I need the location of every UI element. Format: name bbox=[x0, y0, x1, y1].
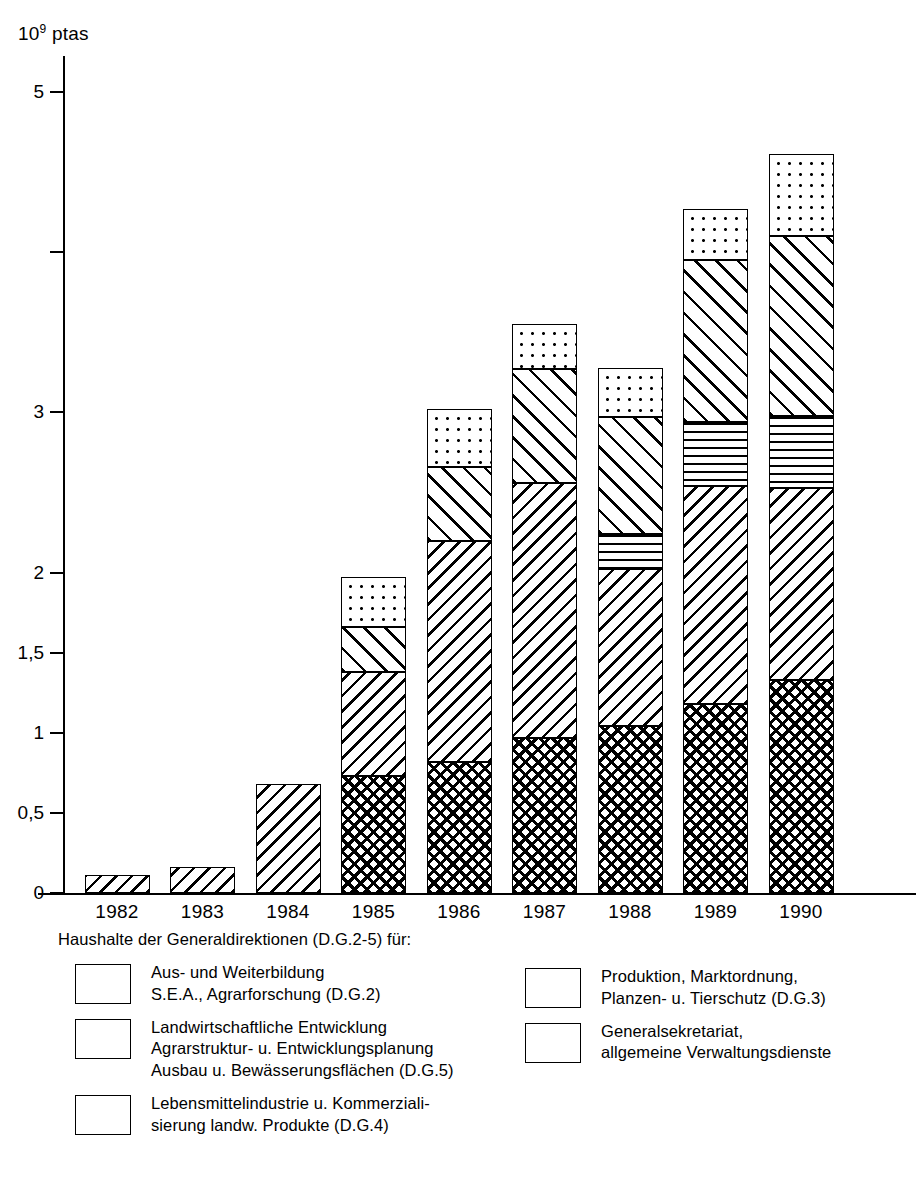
bar-segment-dg3-1988[interactable] bbox=[598, 417, 663, 534]
bar-segment-dg4-1988[interactable] bbox=[598, 534, 663, 569]
legend-swatch-dg2-icon bbox=[75, 964, 131, 1004]
bar-segment-dg4-1990[interactable] bbox=[769, 416, 834, 488]
x-axis-label-1990: 1990 bbox=[761, 901, 841, 923]
bar-1982[interactable] bbox=[85, 0, 150, 893]
legend-label-gs: Generalsekretariat, allgemeine Verwaltun… bbox=[601, 1021, 915, 1065]
bar-segment-dg5-1989[interactable] bbox=[683, 486, 748, 704]
bar-segment-dg5-1987[interactable] bbox=[512, 483, 577, 738]
legend-swatch-dg5-icon bbox=[75, 1019, 131, 1059]
bar-segment-gs-1990[interactable] bbox=[769, 154, 834, 236]
bar-segment-dg3-1990[interactable] bbox=[769, 236, 834, 415]
bar-segment-dg5-1984[interactable] bbox=[256, 784, 321, 893]
bar-segment-dg3-1986[interactable] bbox=[427, 467, 492, 541]
legend-item-dg4[interactable]: Lebensmittelindustrie u. Kommerziali- si… bbox=[75, 1093, 495, 1137]
legend-swatch-dg4-icon bbox=[75, 1095, 131, 1135]
bar-segment-gs-1989[interactable] bbox=[683, 209, 748, 260]
legend-item-dg2[interactable]: Aus- und Weiterbildung S.E.A., Agrarfors… bbox=[75, 962, 495, 1006]
bar-segment-dg3-1989[interactable] bbox=[683, 260, 748, 422]
bar-segment-gs-1986[interactable] bbox=[427, 409, 492, 467]
bar-segment-dg2-1988[interactable] bbox=[598, 726, 663, 893]
legend-item-gs[interactable]: Generalsekretariat, allgemeine Verwaltun… bbox=[525, 1021, 915, 1065]
bar-segment-dg5-1983[interactable] bbox=[170, 867, 235, 893]
x-axis-label-1984: 1984 bbox=[248, 901, 328, 923]
bar-segment-gs-1988[interactable] bbox=[598, 368, 663, 418]
legend-column-left: Aus- und Weiterbildung S.E.A., Agrarfors… bbox=[75, 962, 495, 1147]
chart-root: 109 ptas 5321,510,50 1982198319841985198… bbox=[0, 0, 921, 1191]
x-axis-label-1986: 1986 bbox=[419, 901, 499, 923]
x-axis-label-1988: 1988 bbox=[590, 901, 670, 923]
legend-label-dg2: Aus- und Weiterbildung S.E.A., Agrarfors… bbox=[151, 962, 495, 1006]
x-axis-label-1983: 1983 bbox=[163, 901, 243, 923]
bar-segment-dg3-1987[interactable] bbox=[512, 369, 577, 483]
bar-1984[interactable] bbox=[256, 0, 321, 893]
legend-label-dg4: Lebensmittelindustrie u. Kommerziali- si… bbox=[151, 1093, 495, 1137]
bar-segment-dg2-1985[interactable] bbox=[341, 776, 406, 893]
x-axis-label-1987: 1987 bbox=[505, 901, 585, 923]
bar-segment-dg3-1985[interactable] bbox=[341, 627, 406, 672]
legend-column-right: Produktion, Marktordnung, Planzen- u. Ti… bbox=[525, 966, 915, 1075]
bar-1987[interactable] bbox=[512, 0, 577, 893]
bar-segment-dg5-1990[interactable] bbox=[769, 488, 834, 680]
bar-segment-dg5-1986[interactable] bbox=[427, 541, 492, 762]
legend-label-dg3: Produktion, Marktordnung, Planzen- u. Ti… bbox=[601, 966, 915, 1010]
legend-label-dg5: Landwirtschaftliche Entwicklung Agrarstr… bbox=[151, 1017, 495, 1082]
x-axis-label-1989: 1989 bbox=[676, 901, 756, 923]
bar-segment-dg5-1982[interactable] bbox=[85, 875, 150, 893]
bar-segment-gs-1985[interactable] bbox=[341, 577, 406, 627]
bar-segment-dg5-1985[interactable] bbox=[341, 672, 406, 776]
bar-segment-dg2-1990[interactable] bbox=[769, 680, 834, 893]
bar-segment-dg5-1988[interactable] bbox=[598, 569, 663, 726]
bars-layer bbox=[0, 0, 921, 900]
bar-segment-dg2-1989[interactable] bbox=[683, 704, 748, 893]
legend-swatch-gs-icon bbox=[525, 1023, 581, 1063]
legend-title: Haushalte der Generaldirektionen (D.G.2-… bbox=[58, 930, 411, 949]
x-axis-label-1982: 1982 bbox=[77, 901, 157, 923]
bar-segment-gs-1987[interactable] bbox=[512, 324, 577, 369]
bar-segment-dg4-1989[interactable] bbox=[683, 422, 748, 486]
bar-1983[interactable] bbox=[170, 0, 235, 893]
bar-1990[interactable] bbox=[769, 0, 834, 893]
bar-1989[interactable] bbox=[683, 0, 748, 893]
bar-segment-dg2-1986[interactable] bbox=[427, 762, 492, 893]
bar-1988[interactable] bbox=[598, 0, 663, 893]
legend-swatch-dg3-icon bbox=[525, 968, 581, 1008]
bar-segment-dg2-1987[interactable] bbox=[512, 738, 577, 893]
bar-1986[interactable] bbox=[427, 0, 492, 893]
x-axis-label-1985: 1985 bbox=[334, 901, 414, 923]
legend-item-dg5[interactable]: Landwirtschaftliche Entwicklung Agrarstr… bbox=[75, 1017, 495, 1082]
bar-1985[interactable] bbox=[341, 0, 406, 893]
legend-item-dg3[interactable]: Produktion, Marktordnung, Planzen- u. Ti… bbox=[525, 966, 915, 1010]
